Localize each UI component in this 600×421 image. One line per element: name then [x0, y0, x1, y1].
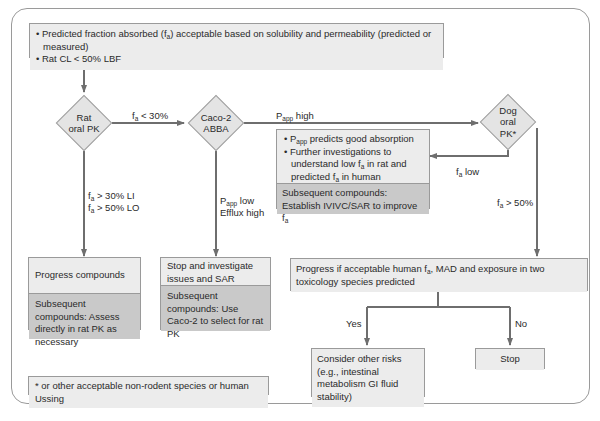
stop-box: Stop — [475, 348, 545, 369]
edge-label-fa-lt-30: fa < 30% — [132, 110, 168, 122]
footnote-box: * or other acceptable non-rodent species… — [28, 376, 269, 395]
subsequent-action: Establish IVIVC/SAR to improve fa — [282, 200, 424, 225]
edge-label-fa-gt-50: fa > 50% — [497, 197, 533, 209]
decision-label: Dog — [499, 105, 516, 117]
progress-if-acceptable-box: Progress if acceptable human fa, MAD and… — [290, 258, 588, 291]
start-bullet-1: • Predicted fraction absorbed (fa) accep… — [34, 28, 439, 53]
decision-label: oral — [500, 116, 516, 128]
edge-label-papp-high: Papp high — [276, 110, 314, 122]
papp-bullet-1: • Papp predicts good absorption — [282, 133, 424, 146]
edge-label-no: No — [515, 318, 527, 330]
edge-label-fa-li-lo: fa > 30% LI fa > 50% LO — [88, 190, 139, 214]
decision-label: ABBA — [203, 123, 228, 135]
decision-caco2-abba: Caco-2 ABBA — [188, 95, 244, 151]
subsequent-label: Subsequent compounds: — [282, 187, 424, 200]
consider-other-risks-box: Consider other risks (e.g., intestinal m… — [311, 348, 425, 397]
papp-good-absorption-box: • Papp predicts good absorption • Furthe… — [276, 129, 430, 209]
decision-label: PK* — [500, 128, 516, 140]
edge-label-papp-low-efflux: Papp low Efflux high — [220, 195, 264, 219]
decision-rat-oral-pk: Rat oral PK — [56, 95, 112, 151]
edge-label-yes: Yes — [346, 318, 362, 330]
decision-dog-oral-pk: Dog oral PK* — [480, 94, 536, 150]
papp-bullet-2: • Further investigations to understand l… — [282, 146, 424, 184]
stop-investigate-box: Stop and investigate issues and SAR Subs… — [160, 257, 271, 330]
decision-label: Caco-2 — [201, 112, 232, 124]
progress-compounds-box: Progress compounds Subsequent compounds:… — [28, 257, 141, 330]
decision-label: Rat — [77, 112, 92, 124]
edge-label-fa-low: fa low — [456, 166, 479, 178]
decision-label: oral PK — [68, 123, 99, 135]
start-criteria-box: • Predicted fraction absorbed (fa) accep… — [29, 23, 444, 58]
start-bullet-2: • Rat CL < 50% LBF — [34, 53, 439, 66]
